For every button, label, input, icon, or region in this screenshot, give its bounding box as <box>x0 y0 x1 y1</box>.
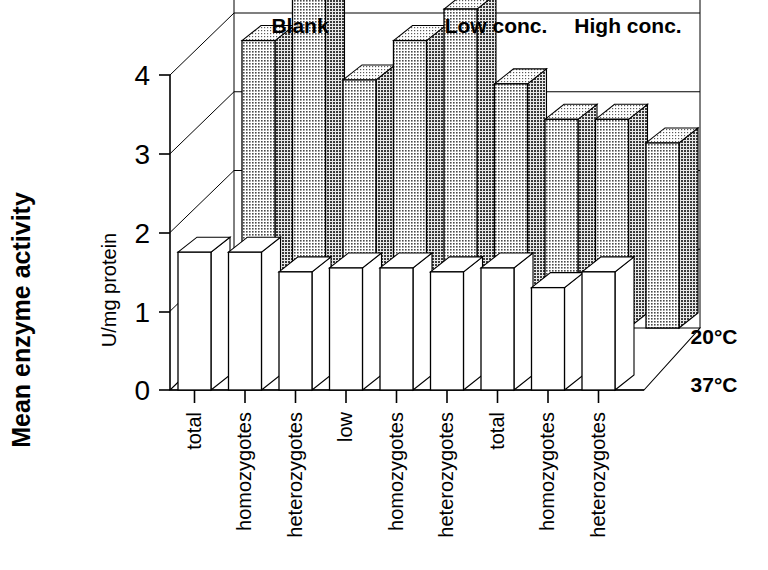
category-label-7: homozygotes <box>536 412 558 531</box>
three-d-bar-chart: Mean enzyme activity U/mg protein 4 3 2 … <box>0 0 768 570</box>
depth-connector-2 <box>170 171 234 233</box>
bar-side-face <box>565 273 584 390</box>
y-tick-label-3: 3 <box>134 139 150 170</box>
category-label-2: heterozygotes <box>284 412 306 538</box>
bar-front-8 <box>582 257 634 390</box>
depth-label-37c: 37°C <box>691 373 738 396</box>
y-axis-title-main: Mean enzyme activity <box>7 192 35 448</box>
bar-front-7 <box>532 273 584 390</box>
bar-side-face <box>211 237 230 390</box>
depth-connector-3 <box>170 92 234 154</box>
group-label-blank: Blank <box>271 14 329 37</box>
bar-back-8 <box>646 128 698 328</box>
bar-front-1 <box>229 237 281 390</box>
bar-front-face <box>229 252 262 390</box>
category-label-4: homozygotes <box>385 412 407 531</box>
category-label-3: low <box>334 411 356 442</box>
bar-front-face <box>178 252 211 390</box>
bar-front-4 <box>380 253 432 390</box>
group-label-high: High conc. <box>574 14 681 37</box>
bar-front-face <box>380 268 413 390</box>
bar-front-6 <box>481 253 533 390</box>
category-label-5: heterozygotes <box>435 412 457 538</box>
y-axis-title-group: Mean enzyme activity U/mg protein <box>7 192 120 448</box>
depth-label-20c: 20°C <box>691 325 738 348</box>
category-label-6: total <box>486 412 508 450</box>
bar-side-face <box>464 257 483 390</box>
y-tick-label-4: 4 <box>134 60 150 91</box>
bar-front-face <box>431 272 464 390</box>
bar-side-face <box>514 253 533 390</box>
y-tick-label-1: 1 <box>134 297 150 328</box>
category-label-0: total <box>183 412 205 450</box>
depth-axis-labels: 20°C 37°C <box>691 325 738 396</box>
category-label-8: heterozygotes <box>587 412 609 538</box>
bar-side-face <box>679 128 698 328</box>
bar-front-face <box>646 143 679 328</box>
y-tick-label-0: 0 <box>134 375 150 406</box>
bar-side-face <box>312 257 331 390</box>
y-tick-label-2: 2 <box>134 218 150 249</box>
group-label-low: Low conc. <box>445 14 548 37</box>
y-axis-title-units: U/mg protein <box>98 233 120 348</box>
chart-page: Mean enzyme activity U/mg protein 4 3 2 … <box>0 0 768 570</box>
bar-front-face <box>279 272 312 390</box>
bar-front-face <box>582 272 615 390</box>
bar-front-2 <box>279 257 331 390</box>
bar-front-3 <box>330 253 382 390</box>
bar-front-face <box>481 268 514 390</box>
depth-connector-4 <box>170 13 234 75</box>
bar-side-face <box>615 257 634 390</box>
bar-front-face <box>330 268 363 390</box>
chart-plot-area <box>170 0 700 403</box>
bar-side-face <box>413 253 432 390</box>
bar-side-face <box>262 237 281 390</box>
category-labels: totalhomozygotesheterozygoteslowhomozygo… <box>183 411 609 537</box>
bar-front-face <box>532 288 565 390</box>
bar-side-face <box>363 253 382 390</box>
y-axis: 4 3 2 1 0 <box>134 60 170 406</box>
bar-front-0 <box>178 237 230 390</box>
category-label-1: homozygotes <box>233 412 255 531</box>
bar-front-5 <box>431 257 483 390</box>
